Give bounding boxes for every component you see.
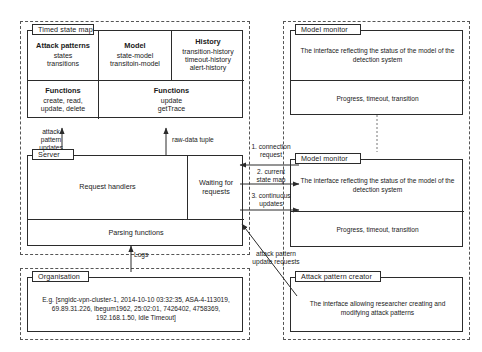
model-monitor-mid-footer: Progress, timeout, transition: [336, 226, 418, 234]
model-monitor-top-footer-cell: Progress, timeout, transition: [291, 81, 464, 116]
timed-state-map-box: Attack patterns states transitions Model…: [27, 30, 243, 118]
model-monitor-top-tab: Model monitor: [295, 24, 361, 35]
functions-left-lines: create, read, update, delete: [41, 97, 85, 114]
organisation-box: E.g. [sngidc-vpn-cluster-1, 2014-10-10 0…: [27, 277, 243, 332]
label-logs: Logs: [134, 251, 148, 259]
model-monitor-mid-box: The interface reflecting the status of t…: [290, 159, 463, 247]
label-continuous-updates: 3. continuous updates: [243, 192, 299, 208]
label-attack-pattern-updates: attack pattern updates: [31, 128, 71, 152]
model-monitor-mid-description: The interface reflecting the status of t…: [301, 177, 455, 195]
server-box: Request handlers Waiting for requests Pa…: [27, 155, 243, 246]
attack-pattern-creator-box: The interface allowing researcher creati…: [290, 277, 463, 332]
diagram-canvas: Attack patterns states transitions Model…: [0, 0, 482, 352]
functions-right-lines: update getTrace: [158, 97, 185, 114]
timed-state-map-col-attack-patterns: Attack patterns states transitions: [28, 31, 99, 81]
label-connection-request: 1. connection request: [243, 143, 299, 159]
waiting-for-requests-cell: Waiting for requests: [188, 156, 244, 220]
parsing-functions-cell: Parsing functions: [28, 220, 244, 247]
timed-state-map-col-model: Model state-model transitoin-model: [99, 31, 172, 81]
model-monitor-top-footer: Progress, timeout, transition: [336, 95, 418, 103]
parsing-functions-label: Parsing functions: [108, 229, 163, 237]
model-monitor-mid-description-cell: The interface reflecting the status of t…: [291, 160, 464, 212]
attack-patterns-title: Attack patterns: [36, 42, 90, 51]
history-lines: transition-history timeout-history alert…: [182, 48, 233, 73]
model-title: Model: [124, 42, 145, 51]
waiting-for-requests-label: Waiting for requests: [199, 179, 233, 196]
timed-state-map-functions-left: Functions create, read, update, delete: [28, 81, 99, 119]
label-attack-pattern-update-requests: attack pattern update requests: [243, 250, 309, 266]
attack-pattern-creator-description-cell: The interface allowing researcher creati…: [291, 284, 464, 333]
attack-pattern-creator-description: The interface allowing researcher creati…: [310, 300, 446, 318]
model-monitor-top-description: The interface reflecting the status of t…: [301, 47, 455, 65]
model-lines: state-model transitoin-model: [110, 52, 160, 69]
label-raw-data-tuple: raw-data tuple: [172, 136, 214, 144]
attack-patterns-lines: states transitions: [47, 52, 79, 69]
model-monitor-mid-footer-cell: Progress, timeout, transition: [291, 212, 464, 248]
functions-left-title: Functions: [45, 87, 80, 96]
model-monitor-top-box: The interface reflecting the status of t…: [290, 30, 463, 115]
attack-pattern-creator-tab: Attack pattern creator: [295, 271, 381, 282]
timed-state-map-tab: Timed state map: [32, 24, 94, 35]
request-handlers-label: Request handlers: [79, 183, 135, 191]
request-handlers-cell: Request handlers: [28, 156, 188, 220]
timed-state-map-col-history: History transition-history timeout-histo…: [172, 31, 244, 81]
model-monitor-mid-tab: Model monitor: [295, 153, 361, 164]
functions-right-title: Functions: [154, 87, 189, 96]
label-current-state-map: 2. current state map: [243, 168, 299, 184]
organisation-tab: Organisation: [32, 271, 89, 282]
model-monitor-top-description-cell: The interface reflecting the status of t…: [291, 31, 464, 81]
history-title: History: [195, 38, 220, 47]
organisation-example-text: E.g. [sngidc-vpn-cluster-1, 2014-10-10 0…: [42, 296, 230, 323]
timed-state-map-functions-right: Functions update getTrace: [99, 81, 244, 119]
